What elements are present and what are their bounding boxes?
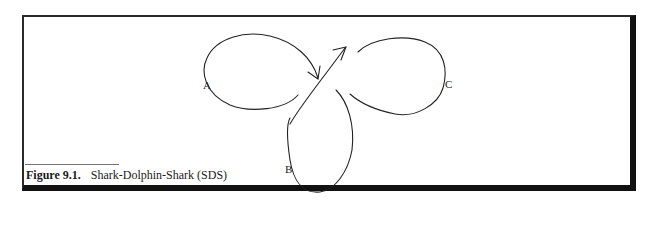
loop-a (204, 34, 318, 109)
figure-number: Figure 9.1. (26, 168, 81, 182)
caption-rule (25, 164, 119, 165)
loop-b (287, 90, 352, 192)
center-arrow (290, 48, 345, 124)
loop-c (350, 38, 445, 115)
figure-caption: Figure 9.1.Shark-Dolphin-Shark (SDS) (26, 168, 227, 183)
label-b: B (285, 163, 292, 175)
figure-title: Shark-Dolphin-Shark (SDS) (91, 168, 227, 182)
label-c: C (445, 78, 452, 90)
label-a: A (203, 79, 211, 91)
